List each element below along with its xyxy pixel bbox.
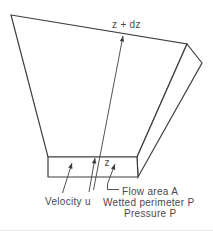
- label-flow-area: Flow area A: [122, 186, 178, 197]
- duct-flow-diagram: z + dz z Velocity u Flow area A Wetted p…: [0, 0, 213, 231]
- label-wetted-perimeter: Wetted perimeter P: [103, 197, 194, 208]
- diagram-canvas: z + dz z Velocity u Flow area A Wetted p…: [0, 0, 213, 231]
- label-pressure: Pressure P: [124, 208, 176, 219]
- duct-body: [11, 15, 202, 177]
- label-z-plus-dz: z + dz: [112, 19, 141, 30]
- label-velocity: Velocity u: [45, 196, 91, 207]
- label-z: z: [105, 157, 110, 168]
